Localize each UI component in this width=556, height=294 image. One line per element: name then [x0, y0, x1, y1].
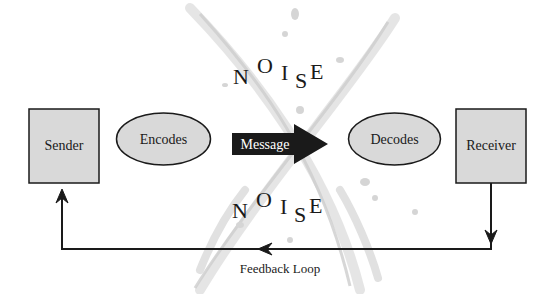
sender-node: Sender: [29, 109, 99, 183]
feedback-line: [62, 183, 491, 249]
splatter-dot: [287, 237, 293, 243]
noise-letter: I: [280, 194, 287, 219]
splatter-dot: [291, 8, 299, 20]
communication-diagram: Sender Encodes Message Decodes Receiver …: [0, 0, 556, 294]
splatter-dot: [412, 209, 418, 215]
sender-label: Sender: [45, 138, 84, 153]
noise-letter: I: [281, 60, 288, 85]
feedback-label: Feedback Loop: [240, 261, 321, 276]
noise-letter: E: [309, 193, 322, 218]
receiver-node: Receiver: [456, 109, 526, 183]
encodes-node: Encodes: [117, 113, 211, 165]
splatter-dot: [222, 83, 228, 87]
noise-letter: O: [256, 187, 272, 212]
receiver-label: Receiver: [466, 138, 516, 153]
encodes-label: Encodes: [140, 132, 187, 147]
noise-letter: O: [257, 53, 273, 78]
message-label: Message: [241, 137, 290, 152]
splatter-dot: [296, 106, 304, 114]
noise-letter: S: [295, 68, 307, 93]
feedback-loop: Feedback Loop: [56, 183, 497, 276]
noise-letter: E: [310, 59, 323, 84]
noise-letter: N: [232, 198, 248, 223]
noise-letter: S: [294, 202, 306, 227]
splatter-dot: [372, 195, 378, 201]
noise-label-top: N O I S E: [233, 53, 323, 93]
noise-letter: N: [233, 64, 249, 89]
splatter-dot: [336, 57, 344, 63]
splatter-dot: [282, 31, 288, 37]
decodes-label: Decodes: [370, 132, 418, 147]
splatter-dot: [360, 178, 370, 186]
decodes-node: Decodes: [349, 113, 441, 165]
